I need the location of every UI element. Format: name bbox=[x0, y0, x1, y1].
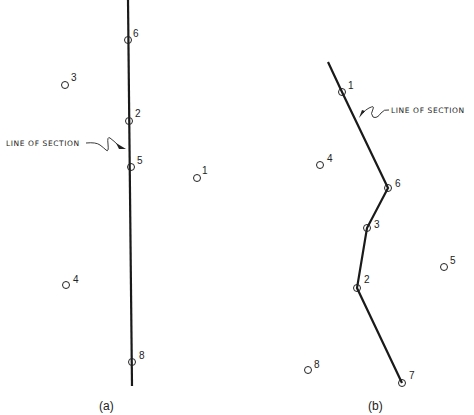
line-of-section-callout-a: LINE OF SECTION bbox=[6, 138, 126, 151]
line-of-section-a bbox=[128, 0, 132, 386]
svg-text:8: 8 bbox=[139, 350, 145, 361]
panel-a: 6 3 2 5 1 4 8 LINE OF SECTION bbox=[6, 0, 208, 413]
cross-section-diagram: 6 3 2 5 1 4 8 LINE OF SECTION bbox=[0, 0, 474, 415]
svg-text:3: 3 bbox=[374, 219, 380, 230]
well-b-8: 8 bbox=[305, 359, 321, 374]
line-of-section-callout-b: LINE OF SECTION bbox=[359, 106, 465, 118]
svg-text:1: 1 bbox=[348, 80, 354, 91]
caption-b: (b) bbox=[368, 399, 383, 413]
well-a-3: 3 bbox=[62, 72, 78, 89]
svg-text:1: 1 bbox=[202, 165, 208, 176]
squiggle-arrow-icon bbox=[363, 107, 389, 118]
svg-text:6: 6 bbox=[133, 28, 139, 39]
svg-text:6: 6 bbox=[395, 178, 401, 189]
well-b-7: 7 bbox=[399, 370, 416, 387]
svg-text:LINE OF SECTION: LINE OF SECTION bbox=[391, 106, 465, 115]
svg-text:4: 4 bbox=[73, 274, 79, 285]
svg-text:7: 7 bbox=[409, 370, 415, 381]
svg-text:8: 8 bbox=[314, 359, 320, 370]
svg-text:2: 2 bbox=[135, 108, 141, 119]
svg-text:2: 2 bbox=[364, 274, 370, 285]
well-a-1: 1 bbox=[194, 165, 209, 182]
well-a-2: 2 bbox=[126, 108, 142, 125]
svg-text:5: 5 bbox=[450, 255, 456, 266]
well-b-4: 4 bbox=[317, 153, 334, 169]
svg-text:3: 3 bbox=[71, 72, 77, 83]
svg-text:5: 5 bbox=[137, 155, 143, 166]
svg-text:4: 4 bbox=[327, 153, 333, 164]
squiggle-arrow-icon bbox=[86, 138, 118, 151]
well-b-2: 2 bbox=[354, 274, 371, 292]
arrowhead-icon bbox=[359, 110, 365, 118]
well-a-6: 6 bbox=[125, 28, 140, 44]
well-b-5: 5 bbox=[441, 255, 457, 271]
svg-text:LINE OF SECTION: LINE OF SECTION bbox=[6, 139, 80, 148]
caption-a: (a) bbox=[99, 399, 114, 413]
panel-b: 1 4 6 3 5 2 8 7 bbox=[305, 62, 465, 413]
well-a-4: 4 bbox=[63, 274, 80, 289]
